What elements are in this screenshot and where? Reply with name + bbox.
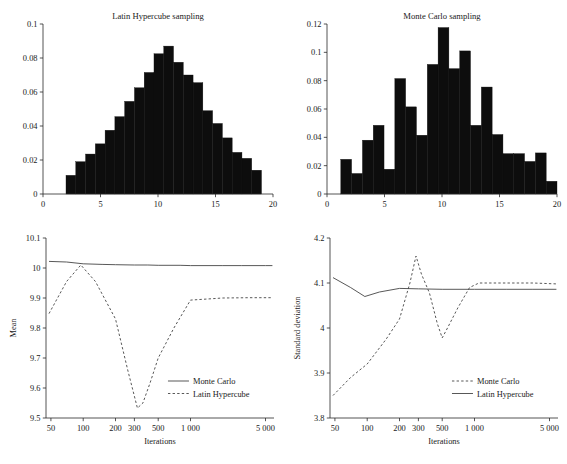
y-axis-tick-label: 0.1 bbox=[27, 20, 37, 29]
histogram-bar bbox=[362, 140, 373, 194]
y-axis-tick-label: 9.8 bbox=[30, 324, 40, 333]
histogram-bar bbox=[449, 69, 460, 194]
x-axis-label: Iterations bbox=[428, 437, 460, 446]
y-axis-tick-label: 9.5 bbox=[30, 414, 40, 423]
y-axis-tick-label: 10 bbox=[32, 264, 40, 273]
histogram-bar bbox=[352, 173, 363, 194]
y-axis-tick-label: 0.04 bbox=[23, 122, 38, 131]
histogram-bar bbox=[213, 123, 223, 194]
histogram-bar bbox=[193, 83, 203, 194]
histogram-bar bbox=[373, 125, 384, 194]
histogram-bar bbox=[203, 111, 213, 194]
x-axis-tick-label: 5 bbox=[382, 200, 386, 209]
y-axis-tick-label: 0 bbox=[33, 190, 37, 199]
legend-label: Monte Carlo bbox=[477, 377, 520, 386]
histogram-bar bbox=[115, 117, 125, 194]
x-axis-tick-label: 5 bbox=[98, 200, 102, 209]
series-line-monte-carlo bbox=[49, 261, 272, 265]
x-axis-tick-label: 50 bbox=[331, 424, 339, 433]
x-axis-tick-label: 5 000 bbox=[540, 424, 559, 433]
histogram-bar bbox=[252, 170, 262, 194]
standard-deviation-convergence-svg: 3.83.944.14.2501002003005001 0005 000Ite… bbox=[284, 228, 567, 464]
histogram-bar bbox=[183, 75, 193, 194]
x-axis-tick-label: 500 bbox=[152, 424, 165, 433]
latin-hypercube-histogram-svg: Latin Hypercube sampling00.020.040.060.0… bbox=[0, 8, 283, 220]
y-axis-tick-label: 3.8 bbox=[314, 414, 324, 423]
histogram-bar bbox=[144, 72, 154, 194]
y-axis-tick-label: 9.9 bbox=[30, 294, 40, 303]
x-axis-tick-label: 10 bbox=[154, 200, 162, 209]
histogram-bars bbox=[341, 28, 557, 194]
histogram-bar bbox=[95, 144, 105, 194]
histogram-bar bbox=[535, 153, 546, 194]
histogram-bar bbox=[525, 161, 536, 194]
y-axis-tick-label: 0.04 bbox=[307, 133, 322, 142]
x-axis-tick-label: 100 bbox=[361, 424, 374, 433]
x-axis-tick-label: 100 bbox=[77, 424, 90, 433]
y-axis-tick-label: 0.08 bbox=[307, 77, 322, 86]
mean-convergence-svg: 9.59.69.79.89.91010.1501002003005001 000… bbox=[0, 228, 283, 464]
histogram-bar bbox=[406, 107, 417, 194]
histogram-bar bbox=[546, 181, 557, 194]
panel-latin-hypercube-histogram: Latin Hypercube sampling00.020.040.060.0… bbox=[0, 8, 283, 220]
y-axis-tick-label: 3.9 bbox=[314, 369, 324, 378]
series-line-latin-hypercube bbox=[49, 265, 272, 408]
histogram-bar bbox=[134, 88, 144, 194]
x-axis-tick-label: 15 bbox=[211, 200, 219, 209]
histogram-bar bbox=[460, 51, 471, 194]
histogram-bar bbox=[341, 159, 352, 194]
x-axis-tick-label: 0 bbox=[41, 200, 45, 209]
figure-canvas: Latin Hypercube sampling00.020.040.060.0… bbox=[0, 0, 567, 464]
y-axis-tick-label: 0.06 bbox=[307, 105, 322, 114]
x-axis-tick-label: 0 bbox=[325, 200, 329, 209]
x-axis-tick-label: 15 bbox=[495, 200, 503, 209]
y-axis-tick-label: 4.2 bbox=[314, 234, 324, 243]
histogram-bar bbox=[242, 158, 252, 194]
panel-standard-deviation-convergence: 3.83.944.14.2501002003005001 0005 000Ite… bbox=[284, 228, 567, 464]
y-axis-label: Mean bbox=[9, 318, 18, 338]
histogram-bar bbox=[471, 125, 482, 194]
histogram-bar bbox=[222, 138, 232, 194]
x-axis-tick-label: 20 bbox=[553, 200, 561, 209]
y-axis-tick-label: 0.02 bbox=[23, 156, 38, 165]
histogram-bar bbox=[105, 130, 115, 194]
y-axis-label: Standard deviation bbox=[293, 296, 302, 360]
series-line-latin-hypercube bbox=[333, 278, 556, 297]
histogram-bar bbox=[174, 62, 184, 194]
histogram-bar bbox=[125, 101, 135, 194]
chart-title: Latin Hypercube sampling bbox=[112, 11, 204, 21]
histogram-bar bbox=[395, 79, 406, 194]
series-line-monte-carlo bbox=[333, 256, 556, 396]
histogram-bar bbox=[503, 154, 514, 194]
histogram-bar bbox=[154, 54, 164, 194]
histogram-bar bbox=[427, 64, 438, 194]
legend-label: Monte Carlo bbox=[193, 377, 236, 386]
histogram-bar bbox=[66, 175, 76, 194]
y-axis-tick-label: 9.7 bbox=[30, 354, 40, 363]
x-axis-tick-label: 1 000 bbox=[181, 424, 200, 433]
histogram-bars bbox=[66, 46, 262, 194]
y-axis-tick-label: 0 bbox=[317, 190, 321, 199]
y-axis-tick-label: 4.1 bbox=[314, 279, 324, 288]
x-axis-tick-label: 20 bbox=[269, 200, 277, 209]
x-axis-tick-label: 500 bbox=[436, 424, 449, 433]
y-axis-tick-label: 0.12 bbox=[307, 20, 322, 29]
x-axis-tick-label: 1 000 bbox=[465, 424, 484, 433]
y-axis-tick-label: 0.02 bbox=[307, 162, 322, 171]
panel-mean-convergence: 9.59.69.79.89.91010.1501002003005001 000… bbox=[0, 228, 283, 464]
histogram-bar bbox=[492, 135, 503, 195]
x-axis-tick-label: 300 bbox=[128, 424, 141, 433]
histogram-bar bbox=[514, 154, 525, 194]
panel-monte-carlo-histogram: Monte Carlo sampling00.020.040.060.080.1… bbox=[284, 8, 567, 220]
x-axis-label: Iterations bbox=[144, 437, 176, 446]
histogram-bar bbox=[384, 169, 395, 194]
x-axis-tick-label: 300 bbox=[412, 424, 425, 433]
histogram-bar bbox=[86, 154, 96, 194]
x-axis-tick-label: 5 000 bbox=[256, 424, 275, 433]
x-axis-tick-label: 200 bbox=[109, 424, 122, 433]
legend-label: Latin Hypercube bbox=[477, 390, 534, 399]
y-axis-tick-label: 10.1 bbox=[26, 234, 41, 243]
y-axis-tick-label: 9.6 bbox=[30, 384, 40, 393]
monte-carlo-histogram-svg: Monte Carlo sampling00.020.040.060.080.1… bbox=[284, 8, 567, 220]
y-axis-tick-label: 0.06 bbox=[23, 88, 38, 97]
